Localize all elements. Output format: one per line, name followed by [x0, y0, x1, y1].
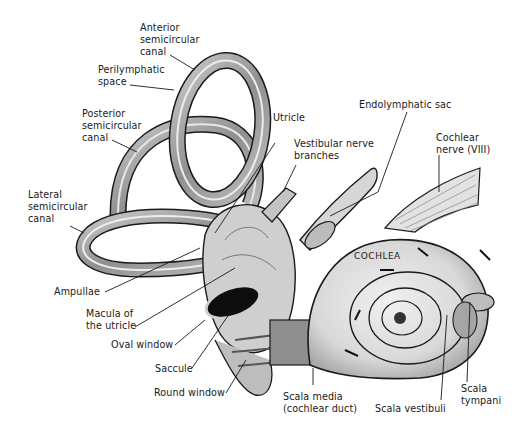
vestibular-nerve-stub [262, 188, 296, 222]
inner-ear-diagram: Anterior semicircular canal Perilymphati… [0, 0, 530, 441]
label-round-window: Round window [154, 387, 225, 399]
label-cochlea: COCHLEA [354, 250, 401, 262]
endolymphatic-sac [300, 168, 377, 253]
cochlear-nerve [385, 168, 480, 232]
label-scala-vestibuli: Scala vestibuli [375, 403, 446, 415]
label-saccule: Saccule [155, 363, 193, 375]
label-cochlear-nerve: Cochlear nerve (VIII) [436, 132, 490, 156]
label-ampullae: Ampullae [54, 286, 100, 298]
label-oval-window: Oval window [111, 339, 173, 351]
label-anterior-canal: Anterior semicircular canal [140, 22, 200, 58]
label-macula-of-utricle: Macula of the utricle [86, 308, 136, 332]
label-endolymphatic-sac: Endolymphatic sac [359, 99, 451, 111]
label-perilymphatic-space: Perilymphatic space [98, 64, 165, 88]
label-lateral-canal: Lateral semicircular canal [28, 189, 88, 225]
label-scala-tympani: Scala tympani [461, 383, 501, 407]
label-vestibular-nerve-branches: Vestibular nerve branches [294, 138, 374, 162]
label-scala-media: Scala media (cochlear duct) [283, 391, 357, 415]
cochlea [308, 240, 494, 379]
label-posterior-canal: Posterior semicircular canal [82, 108, 142, 144]
label-utricle: Utricle [273, 112, 305, 124]
